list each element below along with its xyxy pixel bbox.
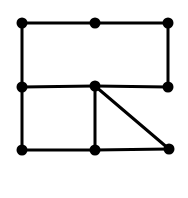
node-B — [90, 18, 101, 29]
node-F — [163, 82, 174, 93]
node-C — [163, 18, 174, 29]
node-G — [17, 145, 28, 156]
edge-D-E — [22, 86, 95, 87]
graph-diagram — [0, 0, 188, 198]
node-D — [17, 82, 28, 93]
edge-E-F — [95, 86, 168, 87]
node-I — [164, 144, 175, 155]
edge-H-I — [95, 149, 169, 150]
node-E — [90, 81, 101, 92]
node-H — [90, 145, 101, 156]
node-A — [17, 18, 28, 29]
edge-E-I — [95, 86, 169, 149]
